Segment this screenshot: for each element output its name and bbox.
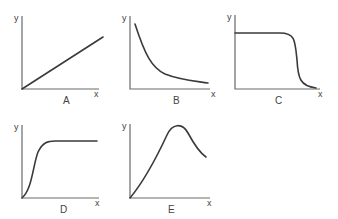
- panel-c-x-label: x: [318, 90, 323, 99]
- panel-e-x-label: x: [207, 199, 212, 208]
- panel-e: [130, 124, 210, 198]
- panel-c-curve: [235, 33, 316, 88]
- panel-d-label: D: [60, 205, 67, 215]
- panel-a-axes: [22, 16, 99, 89]
- panel-a-label: A: [63, 96, 70, 106]
- panel-b-label: B: [173, 96, 180, 106]
- panel-b-y-label: y: [122, 14, 127, 23]
- panel-c: [235, 15, 320, 89]
- panel-e-label: E: [168, 205, 175, 215]
- panel-d-axes: [22, 125, 99, 198]
- panel-e-curve: [130, 126, 206, 198]
- graphs-figure: [0, 0, 338, 219]
- panel-a-x-label: x: [94, 90, 99, 99]
- panel-c-y-label: y: [227, 13, 232, 22]
- panel-c-axes: [235, 15, 320, 89]
- panel-d: [22, 125, 99, 198]
- panel-d-x-label: x: [95, 199, 100, 208]
- panel-b-x-label: x: [211, 90, 216, 99]
- panel-e-axes: [130, 124, 210, 198]
- panel-d-curve: [22, 141, 97, 198]
- panel-e-y-label: y: [122, 122, 127, 131]
- panel-a-curve: [22, 37, 103, 89]
- panel-a-y-label: y: [14, 14, 19, 23]
- panel-b: [130, 16, 210, 89]
- panel-b-curve: [135, 24, 208, 83]
- panel-b-axes: [130, 16, 210, 89]
- panel-c-label: C: [275, 96, 282, 106]
- panel-a: [22, 16, 103, 89]
- panel-d-y-label: y: [14, 123, 19, 132]
